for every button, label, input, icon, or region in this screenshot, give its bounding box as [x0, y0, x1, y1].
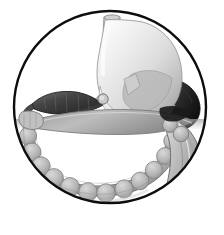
descending-haustrum: [173, 126, 189, 142]
vessel-cross-section: [98, 94, 108, 104]
anatomy-illustration: [0, 0, 224, 235]
illustration-canvas: Stomach and colon anatomical illustratio…: [0, 0, 224, 235]
ascending-colon: [19, 111, 43, 129]
